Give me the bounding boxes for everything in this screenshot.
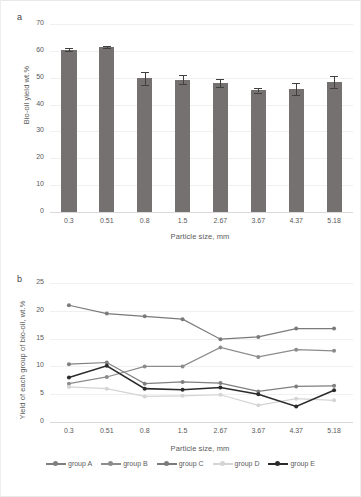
series-point xyxy=(67,362,71,366)
panel-a-x-tick-label: 0.8 xyxy=(125,217,165,224)
panel-a-y-tick-label: 50 xyxy=(20,73,44,80)
panel-a-gridline xyxy=(50,78,353,79)
panel-a-gridline xyxy=(50,185,353,186)
panel-a-y-tick-label: 60 xyxy=(20,46,44,53)
panel-b-y-tick-label: 15 xyxy=(20,334,44,341)
panel-a-bar xyxy=(137,78,152,212)
panel-a-error-bar-cap-bottom xyxy=(254,93,262,94)
legend-item-group-b[interactable]: group B xyxy=(101,460,148,467)
panel-a-y-tick-label: 20 xyxy=(20,153,44,160)
panel-a-bar xyxy=(289,89,304,212)
series-point xyxy=(218,346,222,350)
series-point xyxy=(294,348,298,352)
panel-a-gridline xyxy=(50,158,353,159)
series-point xyxy=(143,382,147,386)
legend-marker-icon xyxy=(101,460,121,467)
panel-a-gridline xyxy=(50,212,353,213)
legend-marker-icon xyxy=(46,460,66,467)
panel-a-error-bar-cap-top xyxy=(292,83,300,84)
series-point xyxy=(332,384,336,388)
series-point xyxy=(105,364,109,368)
figure-container: a Bio-oil yield wt.% Particle size, mm 0… xyxy=(0,0,361,497)
panel-a-bar xyxy=(213,83,228,213)
series-point xyxy=(332,349,336,353)
panel-a-gridline xyxy=(50,105,353,106)
panel-a-error-bar-cap-top xyxy=(103,46,111,47)
panel-a-x-tick-label: 2.67 xyxy=(200,217,240,224)
series-point xyxy=(181,394,185,398)
panel-b-y-tick-label: 0 xyxy=(20,417,44,424)
series-point xyxy=(332,388,336,392)
panel-b-x-tick-label: 4.37 xyxy=(276,427,316,434)
series-point xyxy=(256,355,260,359)
panel-b-x-tick-label: 0.8 xyxy=(125,427,165,434)
legend-item-group-d[interactable]: group D xyxy=(213,460,260,467)
panel-a-error-bar-cap-top xyxy=(179,75,187,76)
panel-b-x-axis-title: Particle size, mm xyxy=(40,444,360,453)
series-point xyxy=(143,364,147,368)
legend-label: group E xyxy=(290,460,315,467)
legend-marker-icon xyxy=(268,460,288,467)
series-point xyxy=(294,327,298,331)
panel-b-legend: group Agroup Bgroup Cgroup Dgroup E xyxy=(0,460,361,467)
panel-b-y-tick-label: 20 xyxy=(20,306,44,313)
legend-item-group-e[interactable]: group E xyxy=(268,460,315,467)
panel-a-error-bar-line xyxy=(145,72,146,85)
series-point xyxy=(143,387,147,391)
legend-dot-icon xyxy=(220,461,225,466)
panel-b-x-tick-label: 1.5 xyxy=(163,427,203,434)
panel-a-gridline xyxy=(50,131,353,132)
panel-b-y-tick-label: 5 xyxy=(20,389,44,396)
panel-a-plot-area xyxy=(50,24,353,212)
series-point xyxy=(332,327,336,331)
series-point xyxy=(256,403,260,407)
series-point xyxy=(143,394,147,398)
series-point xyxy=(181,388,185,392)
panel-a-bar xyxy=(175,80,190,212)
series-point xyxy=(218,337,222,341)
series-point xyxy=(256,392,260,396)
series-point xyxy=(105,387,109,391)
panel-a-error-bar-cap-bottom xyxy=(330,88,338,89)
legend-item-group-c[interactable]: group C xyxy=(157,460,204,467)
panel-a-error-bar-line xyxy=(334,76,335,88)
panel-a-x-tick-label: 0.3 xyxy=(49,217,89,224)
panel-b-y-tick-label: 10 xyxy=(20,361,44,368)
panel-a-x-tick-label: 5.18 xyxy=(314,217,354,224)
panel-a-y-tick-label: 0 xyxy=(20,207,44,214)
series-point xyxy=(294,404,298,408)
panel-b-series-canvas xyxy=(50,283,353,422)
panel-b-x-tick-label: 3.67 xyxy=(238,427,278,434)
panel-b-x-tick-label: 5.18 xyxy=(314,427,354,434)
series-point xyxy=(105,312,109,316)
series-point xyxy=(181,380,185,384)
panel-a-gridline xyxy=(50,24,353,25)
panel-a-x-tick-label: 0.51 xyxy=(87,217,127,224)
series-point xyxy=(67,303,71,307)
panel-b-x-tick-label: 0.51 xyxy=(87,427,127,434)
panel-b-x-tick-label: 0.3 xyxy=(49,427,89,434)
legend-item-group-a[interactable]: group A xyxy=(46,460,92,467)
panel-a-error-bar-line xyxy=(183,75,184,84)
panel-b-x-tick-label: 2.67 xyxy=(200,427,240,434)
panel-a-error-bar-cap-top xyxy=(141,72,149,73)
panel-a-error-bar-cap-top xyxy=(254,88,262,89)
panel-a-gridline xyxy=(50,51,353,52)
legend-dot-icon xyxy=(108,461,113,466)
panel-a-error-bar-cap-bottom xyxy=(292,95,300,96)
series-point xyxy=(67,376,71,380)
panel-a-error-bar-line xyxy=(220,79,221,87)
panel-a-bar xyxy=(327,82,342,212)
panel-a-x-tick-label: 1.5 xyxy=(163,217,203,224)
panel-a-error-bar-cap-bottom xyxy=(216,87,224,88)
legend-marker-icon xyxy=(157,460,177,467)
legend-label: group A xyxy=(68,460,92,467)
panel-b-series-group-c xyxy=(67,303,336,341)
legend-label: group D xyxy=(235,460,260,467)
series-point xyxy=(332,398,336,402)
panel-a-x-tick-label: 4.37 xyxy=(276,217,316,224)
series-point xyxy=(218,393,222,397)
legend-dot-icon xyxy=(53,461,58,466)
panel-a-y-axis-title: Bio-oil yield wt.% xyxy=(22,20,31,170)
legend-label: group C xyxy=(179,460,204,467)
